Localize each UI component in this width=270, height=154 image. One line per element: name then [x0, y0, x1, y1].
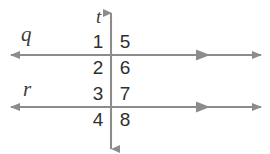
line-label-t: t	[96, 7, 101, 26]
angle-number-7: 7	[117, 84, 133, 103]
line-label-q: q	[21, 24, 32, 45]
parallel-lines-transversal-figure	[0, 0, 270, 154]
line-label-r: r	[23, 79, 31, 100]
angle-number-3: 3	[90, 84, 106, 103]
angle-number-8: 8	[117, 110, 133, 129]
angle-number-2: 2	[90, 58, 106, 77]
parallel-line-q-inner-arrowhead	[196, 50, 210, 61]
angle-number-5: 5	[117, 32, 133, 51]
geometry-diagram: q r t 1 5 2 6 3 7 4 8	[0, 0, 270, 154]
angle-number-1: 1	[90, 32, 106, 51]
angle-number-4: 4	[90, 110, 106, 129]
angle-number-6: 6	[117, 58, 133, 77]
parallel-line-r-inner-arrowhead	[196, 102, 210, 113]
